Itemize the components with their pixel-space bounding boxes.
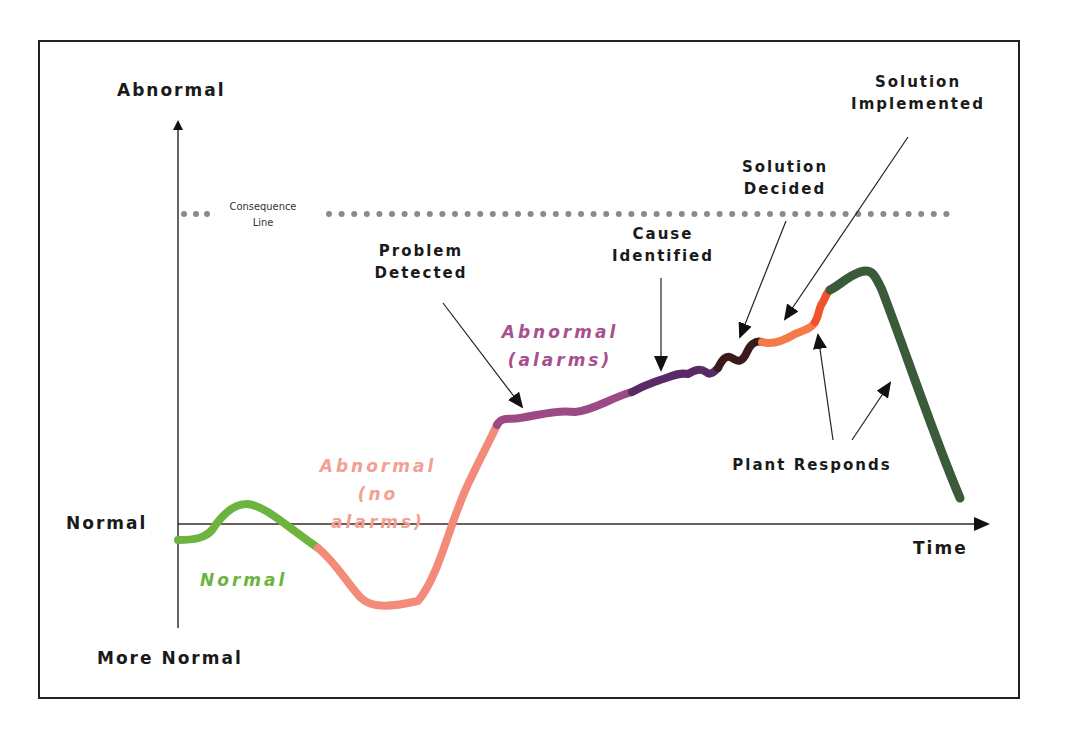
plant-responds-arrow-1 [818,335,833,440]
region-no-alarms-line3: alarms) [318,508,438,536]
plant-responds-line1: Plant Responds [727,454,897,476]
segment-solution-decided [718,342,762,368]
x-axis-label: Time [913,540,968,557]
region-label-normal: Normal [200,566,287,594]
event-label-cause-identified: Cause Identified [608,223,718,267]
solution-decided-line1: Solution [730,156,840,178]
cause-identified-line1: Cause [608,223,718,245]
region-alarms-line1: Abnormal [500,318,620,346]
segment-abnormal-alarms [497,392,632,425]
consequence-label-line2: Line [218,215,308,231]
event-label-solution-decided: Solution Decided [730,156,840,200]
solution-decided-arrow [740,221,786,337]
consequence-label-line1: Consequence [218,199,308,215]
solution-implemented-line1: Solution [838,71,998,93]
region-normal-line1: Normal [200,566,287,594]
y-axis-top-label: Abnormal [117,82,226,99]
event-label-solution-implemented: Solution Implemented [838,71,998,115]
event-label-plant-responds: Plant Responds [727,454,897,476]
y-axis-bottom-label: More Normal [97,650,243,667]
segment-plant-responds-early [815,290,830,322]
region-no-alarms-line2: (no [318,480,438,508]
problem-detected-line1: Problem [366,240,476,262]
segment-cause-identified [632,368,718,392]
plant-responds-arrow-2 [852,383,890,440]
region-label-abnormal-no-alarms: Abnormal (no alarms) [318,452,438,536]
region-no-alarms-line1: Abnormal [318,452,438,480]
region-alarms-line2: (alarms) [500,346,620,374]
solution-implemented-line2: Implemented [838,93,998,115]
problem-detected-line2: Detected [366,262,476,284]
segment-solution-implemented [762,322,815,343]
y-axis-normal-label: Normal [66,515,147,532]
cause-identified-line2: Identified [608,245,718,267]
event-label-problem-detected: Problem Detected [366,240,476,284]
region-label-abnormal-alarms: Abnormal (alarms) [500,318,620,374]
solution-decided-line2: Decided [730,178,840,200]
consequence-line-label: Consequence Line [218,199,308,231]
segment-normal [178,504,318,548]
